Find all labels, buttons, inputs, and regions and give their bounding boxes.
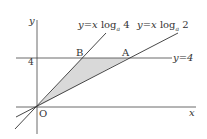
y-tick-4: 4 — [28, 58, 34, 67]
origin-label: O — [39, 109, 47, 119]
line1-label: y=x loga 4 — [78, 20, 130, 32]
line2-label: y=x loga 2 — [137, 20, 189, 32]
line3-label: y=4 — [173, 53, 193, 63]
y-axis-label: y — [29, 16, 35, 26]
line-x-log-a-4 — [15, 33, 106, 129]
line-x-log-a-2 — [16, 33, 178, 117]
point-A-label: A — [122, 48, 129, 58]
x-axis-label: x — [189, 108, 195, 118]
point-B-label: B — [76, 48, 83, 58]
